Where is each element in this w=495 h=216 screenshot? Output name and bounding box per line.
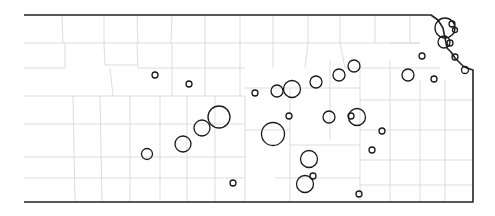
county-boundaries xyxy=(24,16,473,202)
county-line xyxy=(340,43,345,68)
proportional-circle xyxy=(356,191,362,197)
county-line xyxy=(137,16,138,43)
proportional-circle xyxy=(208,106,230,128)
proportional-circle xyxy=(284,81,301,98)
proportional-circle xyxy=(310,76,322,88)
county-line xyxy=(110,68,113,96)
proportional-circle xyxy=(142,149,153,160)
county-line xyxy=(171,16,172,43)
county-line xyxy=(62,16,63,43)
proportional-circle xyxy=(262,123,285,146)
proportional-circle xyxy=(333,69,345,81)
county-line xyxy=(104,43,105,65)
proportional-circle xyxy=(419,53,425,59)
county-line xyxy=(305,43,308,68)
proportional-circle xyxy=(301,151,318,168)
county-line xyxy=(73,96,75,202)
proportional-circle xyxy=(369,147,375,153)
map-canvas xyxy=(0,0,495,216)
proportional-circle xyxy=(349,109,366,126)
county-line xyxy=(137,43,138,68)
proportional-circle xyxy=(252,90,258,96)
proportional-circle xyxy=(230,180,236,186)
proportional-circle xyxy=(431,76,437,82)
proportional-circle xyxy=(271,85,283,97)
proportional-circle xyxy=(175,136,191,152)
county-line xyxy=(100,96,102,202)
proportional-symbols xyxy=(142,18,469,197)
proportional-circle xyxy=(152,72,158,78)
kansas-county-map xyxy=(0,0,495,216)
proportional-circle xyxy=(402,69,414,81)
proportional-circle xyxy=(186,81,192,87)
proportional-circle xyxy=(379,128,385,134)
proportional-circle xyxy=(286,113,292,119)
proportional-circle xyxy=(194,120,210,136)
proportional-circle xyxy=(348,60,360,72)
proportional-circle xyxy=(323,111,335,123)
